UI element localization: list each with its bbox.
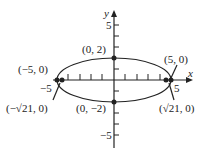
point-right-vertex: (5, 0) xyxy=(164,54,188,65)
y-arrow xyxy=(111,10,117,17)
point-top: (0, 2) xyxy=(82,44,106,55)
x-tick-5: 5 xyxy=(174,83,180,94)
point-bottom: (0, −2) xyxy=(76,103,106,114)
y-tick-neg5: −5 xyxy=(100,130,112,141)
y-tick-5: 5 xyxy=(106,20,112,31)
x-axis-label: x xyxy=(188,68,193,79)
y-axis-label: y xyxy=(104,8,109,19)
point-right-focus: (√21, 0) xyxy=(159,103,194,114)
point-left-vertex: (−5, 0) xyxy=(18,64,48,75)
point-left-focus: (−√21, 0) xyxy=(6,103,48,114)
x-tick-neg5: −5 xyxy=(40,83,52,94)
